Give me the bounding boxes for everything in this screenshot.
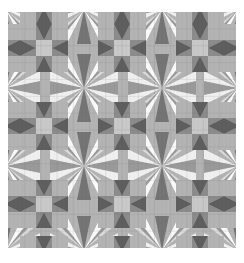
star-block-partial — [20, 12, 68, 24]
star-block — [20, 102, 68, 150]
page-root: Grayscale patchwork quilt pattern — [0, 0, 244, 263]
star-block-partial — [176, 236, 224, 248]
star-block — [176, 24, 224, 72]
star-block-partial — [176, 12, 224, 24]
quilt-pattern-figure — [8, 12, 236, 248]
star-block — [20, 24, 68, 72]
quilt-pattern-svg — [8, 12, 236, 248]
star-block — [176, 102, 224, 150]
star-block — [20, 180, 68, 228]
star-block — [176, 180, 224, 228]
star-block-partial — [20, 236, 68, 248]
